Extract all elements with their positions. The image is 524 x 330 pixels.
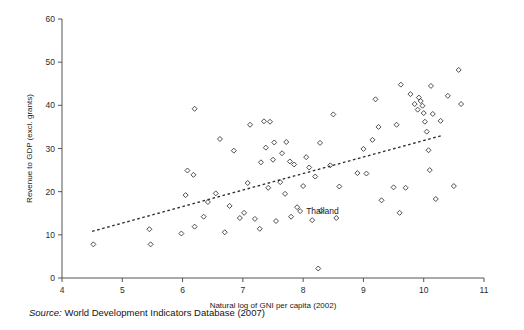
data-point [242, 210, 247, 215]
data-point [192, 224, 197, 229]
data-point [267, 119, 272, 124]
annotation-label-thailand: Thailand [306, 206, 339, 216]
data-point [421, 111, 426, 116]
data-point [408, 92, 413, 97]
x-tick-label: 7 [240, 285, 245, 295]
x-tick-label: 10 [419, 285, 429, 295]
y-tick-label: 30 [46, 144, 56, 154]
x-tick-label: 5 [120, 285, 125, 295]
data-point [415, 107, 420, 112]
data-point [280, 151, 285, 156]
data-point [394, 122, 399, 127]
y-tick-label: 50 [46, 57, 56, 67]
data-point [430, 111, 435, 116]
data-point [403, 185, 408, 190]
source-note: Source: World Development Indicators Dat… [29, 307, 265, 318]
x-tick-label: 9 [361, 285, 366, 295]
data-point [355, 171, 360, 176]
data-point [337, 184, 342, 189]
data-point [261, 119, 266, 124]
data-point [433, 197, 438, 202]
data-point [318, 140, 323, 145]
x-tick-label: 11 [480, 285, 489, 295]
y-tick-label: 40 [46, 100, 56, 110]
data-point [292, 162, 297, 167]
data-point [271, 157, 276, 162]
x-tick-label: 6 [180, 285, 185, 295]
y-tick-label: 0 [50, 273, 55, 283]
data-point [316, 266, 321, 271]
data-point [257, 226, 262, 231]
data-point [459, 102, 464, 107]
data-point [274, 219, 279, 224]
data-point [376, 124, 381, 129]
data-point [379, 198, 384, 203]
data-point [424, 129, 429, 134]
data-point [428, 83, 433, 88]
x-tick-label: 4 [60, 285, 65, 295]
source-text: World Development Indicators Database (2… [64, 307, 264, 318]
axes: 01020304050604567891011 [46, 14, 489, 295]
data-point [283, 191, 288, 196]
data-point [284, 140, 289, 145]
data-point [227, 203, 232, 208]
data-point [237, 215, 242, 220]
data-point [258, 160, 263, 165]
data-point [334, 215, 339, 220]
data-point [370, 137, 375, 142]
data-point [307, 165, 312, 170]
data-point [438, 118, 443, 123]
data-point [295, 205, 300, 210]
data-point [313, 174, 318, 179]
data-point [201, 214, 206, 219]
data-point [398, 82, 403, 87]
y-tick-label: 60 [46, 14, 56, 24]
data-point [263, 145, 268, 150]
y-tick-label: 20 [46, 187, 56, 197]
data-point [179, 231, 184, 236]
data-point [427, 168, 432, 173]
data-point [456, 67, 461, 72]
data-point [397, 210, 402, 215]
data-point [391, 185, 396, 190]
trend-line [92, 136, 442, 232]
chart-canvas: 01020304050604567891011 Natural log of G… [0, 0, 524, 330]
data-point [191, 172, 196, 177]
data-point [445, 93, 450, 98]
data-point [426, 148, 431, 153]
data-point [213, 191, 218, 196]
x-tick-label: 8 [301, 285, 306, 295]
data-point [91, 242, 96, 247]
trendline [92, 136, 442, 232]
data-point [266, 185, 271, 190]
data-point [373, 97, 378, 102]
data-point [301, 184, 306, 189]
data-point [183, 193, 188, 198]
data-point [231, 148, 236, 153]
data-point [416, 95, 421, 100]
data-point [364, 171, 369, 176]
data-point [412, 102, 417, 107]
data-point [248, 122, 253, 127]
y-tick-label: 10 [46, 230, 56, 240]
data-point [217, 137, 222, 142]
y-axis-title: Revenue to GDP (excl. grants) [25, 94, 34, 203]
data-point [148, 242, 153, 247]
data-point [287, 159, 292, 164]
point-annotations: Thailand [306, 206, 339, 216]
data-point [185, 168, 190, 173]
data-point [304, 155, 309, 160]
scatter-chart-figure: 01020304050604567891011 Natural log of G… [0, 0, 524, 330]
data-point [252, 216, 257, 221]
data-point [222, 230, 227, 235]
data-point [310, 218, 315, 223]
data-point [272, 140, 277, 145]
data-points [91, 67, 464, 271]
data-point [331, 112, 336, 117]
data-point [192, 106, 197, 111]
data-point [147, 227, 152, 232]
data-point [361, 146, 366, 151]
data-point [298, 209, 303, 214]
data-point [451, 184, 456, 189]
data-point [245, 181, 250, 186]
